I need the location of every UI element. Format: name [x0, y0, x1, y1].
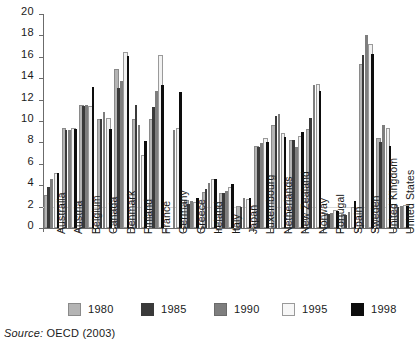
legend-item: 1995 [282, 302, 328, 316]
y-tick-label: 12 [21, 92, 34, 103]
bar-group [148, 14, 165, 228]
bar-group [200, 14, 217, 228]
x-axis-label: Belgium [91, 195, 102, 234]
chart-legend: 19801985199019951998 [68, 302, 368, 318]
x-axis-label: United States [405, 170, 416, 234]
x-axis-label: Finland [143, 199, 154, 234]
y-tick-label: 4 [27, 177, 34, 188]
legend-swatch [351, 303, 364, 316]
y-tick-label: 16 [21, 49, 34, 60]
legend-label: 1985 [161, 304, 187, 315]
x-axis-label: Australia [56, 192, 67, 234]
source-prefix: Source: [4, 327, 43, 339]
legend-swatch [214, 303, 227, 316]
x-axis-label: Denmark [126, 191, 137, 234]
x-axis-label: Luxembourg [265, 175, 276, 234]
x-axis-label: Netherlands [283, 176, 294, 234]
legend-label: 1998 [371, 304, 397, 315]
x-axis-label: Ireland [213, 201, 224, 234]
legend-label: 1990 [234, 304, 260, 315]
bar-group [218, 14, 235, 228]
x-axis-label: Portugal [335, 194, 346, 234]
x-axis-label: Sweden [370, 195, 381, 234]
y-tick-label: 14 [21, 70, 34, 81]
y-tick-label: 10 [21, 113, 34, 124]
source-text: OECD (2003) [43, 327, 115, 339]
x-axis-label: Spain [353, 207, 364, 234]
y-tick-label: 18 [21, 27, 34, 38]
x-axis-label: United Kingdom [388, 158, 399, 234]
legend-item: 1985 [141, 302, 187, 316]
x-axis-label: France [161, 201, 172, 234]
legend-swatch [282, 303, 295, 316]
y-tick-label: 0 [27, 220, 34, 231]
y-tick-label: 6 [27, 156, 34, 167]
y-tick-label: 20 [21, 6, 34, 17]
x-axis-label: Norway [318, 198, 329, 234]
x-axis-label: Canada [108, 197, 119, 234]
x-axis-label: Greece [196, 199, 207, 234]
source-note: Source: OECD (2003) [4, 327, 115, 339]
legend-swatch [141, 303, 154, 316]
chart-figure: 20181614121086420 AustraliaAustriaBelgiu… [0, 0, 416, 347]
x-axis-label: Italy [231, 214, 242, 234]
x-axis-label: Germany [178, 190, 189, 234]
legend-swatch [68, 303, 81, 316]
legend-item: 1990 [214, 302, 260, 316]
x-tick-mark [43, 228, 44, 232]
x-axis-label: Japan [248, 205, 259, 234]
legend-item: 1998 [351, 302, 397, 316]
y-tick-label: 2 [27, 199, 34, 210]
legend-label: 1980 [88, 304, 114, 315]
y-tick-label: 8 [27, 134, 34, 145]
legend-label: 1995 [302, 304, 328, 315]
x-axis-label: Austria [73, 201, 84, 234]
x-axis-label: New Zealand [300, 171, 311, 234]
bar-group [235, 14, 252, 228]
legend-item: 1980 [68, 302, 114, 316]
